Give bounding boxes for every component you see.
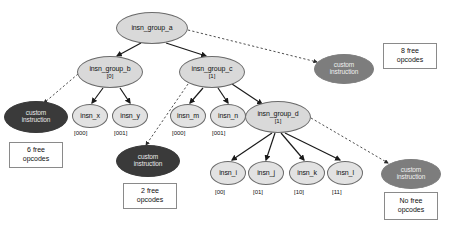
node-label-line-2: instruction [397,174,426,181]
opcode-box-box_mid: 2 freeopcodes [123,183,177,209]
edge-insn_group_a-to-insn_group_b [117,43,141,56]
opcode-tag-insn_n: [001] [212,130,225,136]
node-sublabel: [0] [107,73,114,79]
opcode-tag-insn_j: [01] [253,189,263,195]
edge-insn_group_d-to-insn_i [232,133,272,160]
node-label-line-2: instruction [22,117,51,124]
edge-insn_group_c-to-insn_n [218,88,228,103]
node-label: insn_group_a [131,24,172,31]
edge-insn_group_c-to-insn_group_d [232,84,262,104]
node-label: insn_m [177,112,199,119]
opcode-tag-insn_m: [000] [172,130,185,136]
node-sublabel: [1] [275,118,282,124]
node-custom_right[interactable]: custominstruction [381,159,441,189]
opcode-box-line-1: No free [400,197,423,206]
node-label: insn_group_d [257,110,298,117]
node-label: insn_j [257,169,275,176]
opcode-box-line-2: opcodes [397,56,423,65]
node-insn_j[interactable]: insn_j [248,161,284,185]
node-insn_y[interactable]: insn_y [112,104,148,128]
node-label: custominstruction [330,62,359,76]
node-label-line-2: instruction [330,69,359,76]
node-insn_m[interactable]: insn_m [170,104,206,128]
opcode-tag-insn_y: [001] [114,130,127,136]
node-label: insn_l [336,169,354,176]
edge-insn_group_d-to-custom_right [311,118,388,163]
opcode-tag-insn_x: [000] [74,130,87,136]
opcode-tag-insn_l: [11] [332,189,342,195]
node-insn_group_b[interactable]: insn_group_b[0] [77,56,143,88]
opcode-box-box_top: 8 freeopcodes [383,43,437,69]
node-label: insn_k [297,169,317,176]
opcode-box-line-2: opcodes [398,206,424,215]
node-label: insn_x [80,112,100,119]
edge-insn_group_a-to-insn_group_c [166,43,206,56]
node-custom_left[interactable]: custominstruction [4,101,68,133]
opcode-tag-insn_i: [00] [215,189,225,195]
node-label-line-2: instruction [134,161,163,168]
node-insn_x[interactable]: insn_x [72,104,108,128]
opcode-box-box_right: No freeopcodes [384,192,438,220]
node-label: custominstruction [134,154,163,168]
opcode-box-line-2: opcodes [137,196,163,205]
edge-insn_group_c-to-insn_m [190,88,203,103]
node-custom_top[interactable]: custominstruction [314,54,374,84]
node-label: insn_n [218,112,238,119]
node-insn_k[interactable]: insn_k [289,161,325,185]
diagram-canvas: insn_group_ainsn_group_b[0]insn_group_c[… [0,0,449,228]
opcode-tag-insn_k: [10] [294,189,304,195]
node-label: custominstruction [22,110,51,124]
node-label: insn_group_c [192,65,233,72]
edge-insn_group_d-to-insn_j [266,133,275,160]
node-insn_n[interactable]: insn_n [210,104,246,128]
node-insn_l[interactable]: insn_l [327,161,363,185]
opcode-box-box_left: 6 freeopcodes [9,142,63,168]
edge-insn_group_b-to-insn_y [120,88,130,103]
node-label: insn_group_b [89,65,130,72]
node-label: insn_y [120,112,140,119]
node-custom_mid[interactable]: custominstruction [116,145,180,177]
node-label: custominstruction [397,167,426,181]
edge-insn_group_b-to-custom_left [44,74,78,103]
opcode-box-line-1: 2 free [141,187,159,196]
edge-insn_group_b-to-insn_x [92,88,103,103]
node-sublabel: [1] [209,73,216,79]
node-insn_group_d[interactable]: insn_group_d[1] [245,101,311,133]
opcode-box-line-1: 8 free [401,47,419,56]
node-insn_group_a[interactable]: insn_group_a [116,12,188,44]
opcode-box-line-1: 6 free [27,146,45,155]
node-label: insn_i [219,169,237,176]
node-insn_i[interactable]: insn_i [210,161,246,185]
opcode-box-line-2: opcodes [23,155,49,164]
node-insn_group_c[interactable]: insn_group_c[1] [179,56,245,88]
